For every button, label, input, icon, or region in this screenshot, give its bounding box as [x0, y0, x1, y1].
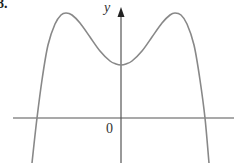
y-axis-label: y — [104, 0, 110, 16]
function-graph-figure: 8. y 0 — [0, 0, 234, 163]
origin-label: 0 — [106, 121, 113, 137]
graph-canvas — [0, 0, 234, 163]
y-axis-arrow-icon — [118, 7, 125, 17]
